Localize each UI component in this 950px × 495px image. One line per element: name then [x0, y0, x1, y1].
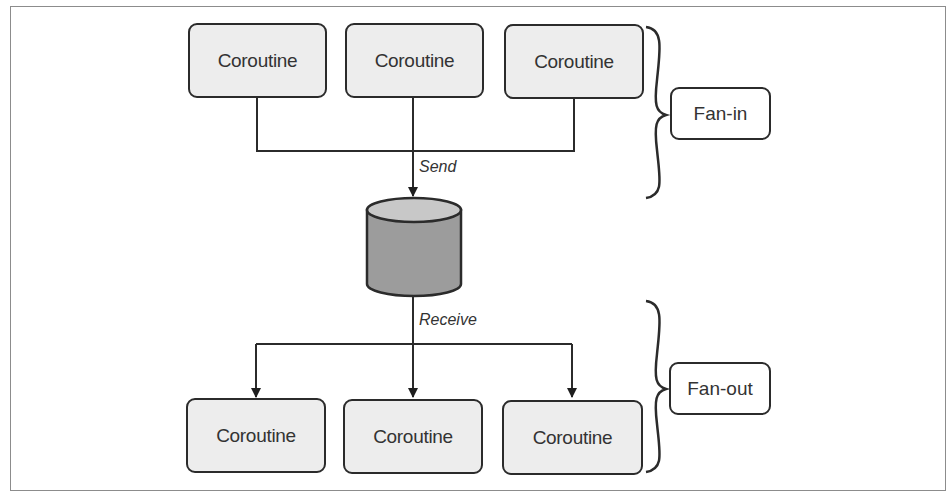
fan-out-brace-icon: [646, 301, 666, 472]
node-label: Coroutine: [375, 50, 455, 72]
producer-coroutine-2: Coroutine: [345, 23, 484, 98]
consumer-coroutine-3: Coroutine: [502, 400, 643, 475]
node-label: Coroutine: [533, 427, 613, 449]
fan-out-connectors: [256, 297, 572, 397]
channel-cylinder-icon: [367, 198, 461, 296]
consumer-coroutine-2: Coroutine: [343, 399, 483, 474]
node-label: Coroutine: [373, 426, 453, 448]
fan-in-label: Fan-in: [694, 103, 748, 125]
producer-coroutine-3: Coroutine: [504, 24, 644, 99]
producer-coroutine-1: Coroutine: [188, 23, 327, 98]
node-label: Coroutine: [534, 51, 614, 73]
fan-in-label-box: Fan-in: [670, 87, 771, 140]
send-label: Send: [419, 158, 456, 176]
fan-out-label: Fan-out: [687, 378, 752, 400]
node-label: Coroutine: [218, 50, 298, 72]
fan-out-label-box: Fan-out: [669, 362, 771, 415]
node-label: Coroutine: [216, 425, 296, 447]
fan-in-brace-icon: [646, 27, 666, 198]
consumer-coroutine-1: Coroutine: [186, 398, 326, 473]
fan-in-connectors: [257, 97, 574, 196]
receive-label: Receive: [419, 311, 477, 329]
